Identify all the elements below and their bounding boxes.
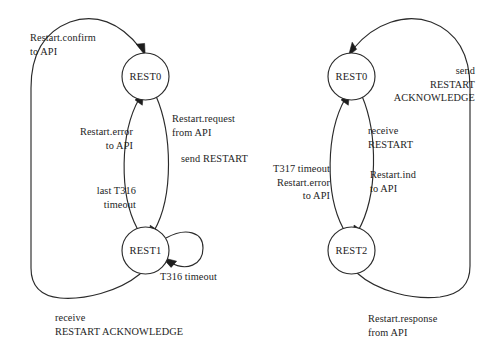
label-restart-error-left-line2: to API [43,139,133,153]
label-restart-ind-line1: Restart.ind [370,168,416,182]
label-send-restart-acknowledge-line2: RESTART [375,78,475,92]
label-last-t316-timeout: last T316 timeout [61,184,136,211]
label-last-t316-timeout-line1: last T316 [61,184,136,198]
state-node-rest2-label: REST2 [336,245,368,256]
label-restart-response-line1: Restart.response [368,312,437,326]
label-t317-timeout-line2: Restart.error [250,176,330,190]
state-node-rest0-right-label: REST0 [336,71,368,82]
state-node-rest0-left-label: REST0 [130,71,162,82]
label-restart-confirm-line2: to API [30,45,96,59]
label-receive-restart: receive RESTART [368,124,413,151]
label-t316-timeout: T316 timeout [160,270,217,284]
label-send-restart-acknowledge-line1: send [375,64,475,78]
label-restart-request-line2: from API [172,126,248,140]
label-last-t316-timeout-line2: timeout [61,198,136,212]
label-receive-restart-acknowledge: receive RESTART ACKNOWLEDGE [55,311,183,338]
label-send-restart-acknowledge-line3: ACKNOWLEDGE [375,91,475,105]
label-restart-confirm: Restart.confirm to API [30,31,96,58]
label-restart-ind-line2: to API [370,182,416,196]
label-t317-timeout-line1: T317 timeout [250,162,330,176]
label-receive-restart-acknowledge-line2: RESTART ACKNOWLEDGE [55,325,183,339]
state-diagram-page: REST0 REST1 REST0 REST2 Restart.confirm … [0,0,497,352]
state-node-rest1-label: REST1 [130,245,162,256]
label-receive-restart-acknowledge-line1: receive [55,311,183,325]
edge-rest0-to-rest1-right [154,96,169,231]
edge-rest2-to-rest0-inner [330,99,345,228]
label-restart-confirm-line1: Restart.confirm [30,31,96,45]
label-restart-error-left-line1: Restart.error [43,125,133,139]
label-t317-timeout-line3: to API [250,189,330,203]
label-restart-response-line2: from API [368,326,437,340]
label-restart-error-left: Restart.error to API [43,125,133,152]
label-send-restart-acknowledge: send RESTART ACKNOWLEDGE [375,64,475,105]
label-t317-timeout: T317 timeout Restart.error to API [250,162,330,203]
label-t316-timeout-line1: T316 timeout [160,270,217,284]
label-send-restart: send RESTART [172,152,248,166]
label-restart-request: Restart.request from API send RESTART [172,112,248,166]
label-restart-ind: Restart.ind to API [370,168,416,195]
label-receive-restart-line1: receive [368,124,413,138]
label-receive-restart-line2: RESTART [368,138,413,152]
label-restart-request-line1: Restart.request [172,112,248,126]
label-restart-response: Restart.response from API [368,312,437,339]
edge-rest0-to-rest2-right [358,96,374,231]
